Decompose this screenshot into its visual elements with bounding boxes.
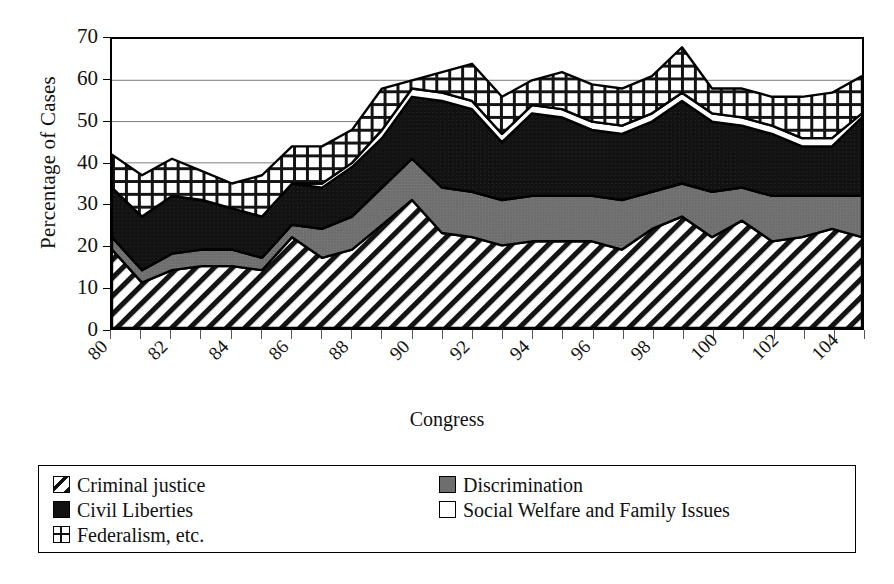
x-tick-mark [140, 330, 141, 339]
x-tick-label: 82 [144, 337, 171, 364]
x-tick-label: 102 [748, 330, 782, 364]
x-tick-label: 84 [205, 337, 232, 364]
y-tick-label: 0 [52, 319, 98, 340]
plot-area [110, 37, 864, 330]
y-tick-label: 20 [52, 235, 98, 256]
x-tick-mark [170, 330, 171, 339]
x-tick-label: 88 [325, 337, 352, 364]
x-tick-label: 98 [627, 337, 654, 364]
x-tick-mark [562, 330, 563, 339]
legend-item[interactable]: Civil Liberties [53, 497, 205, 522]
x-tick-mark [653, 330, 654, 339]
x-tick-mark [593, 330, 594, 339]
x-tick-label: 86 [265, 337, 292, 364]
x-tick-mark [502, 330, 503, 339]
x-tick-label: 96 [567, 337, 594, 364]
cross-hatch-swatch [53, 526, 70, 543]
x-tick-mark [743, 330, 744, 339]
x-tick-label: 100 [687, 330, 721, 364]
chart-legend: Criminal justiceCivil LibertiesFederalis… [38, 465, 856, 553]
legend-item[interactable]: Social Welfare and Family Issues [439, 497, 730, 522]
solid-black-swatch [53, 501, 70, 518]
chart-figure: Percentage of Cases Congress 01020304050… [0, 0, 894, 584]
x-tick-mark [804, 330, 805, 339]
stacked-area-svg [112, 39, 862, 328]
legend-item-label: Federalism, etc. [77, 525, 204, 545]
x-axis-title: Congress [0, 408, 894, 431]
x-tick-mark [351, 330, 352, 339]
y-tick-label: 40 [52, 152, 98, 173]
area-series-group [112, 47, 862, 328]
y-tick-label: 50 [52, 110, 98, 131]
y-tick-label: 10 [52, 277, 98, 298]
x-tick-mark [864, 330, 865, 339]
x-tick-mark [381, 330, 382, 339]
x-tick-mark [261, 330, 262, 339]
x-tick-mark [291, 330, 292, 339]
open-white-swatch [439, 501, 456, 518]
legend-item[interactable]: Federalism, etc. [53, 522, 205, 547]
y-tick-label: 30 [52, 193, 98, 214]
x-tick-label: 90 [386, 337, 413, 364]
diagonal-hatch-swatch [53, 476, 70, 493]
x-tick-mark [623, 330, 624, 339]
legend-item-label: Discrimination [463, 475, 583, 495]
x-tick-mark [321, 330, 322, 339]
x-tick-mark [231, 330, 232, 339]
x-tick-mark [442, 330, 443, 339]
x-tick-mark [472, 330, 473, 339]
legend-item[interactable]: Criminal justice [53, 472, 205, 497]
legend-column-left: Criminal justiceCivil LibertiesFederalis… [53, 472, 205, 547]
y-tick-label: 60 [52, 68, 98, 89]
legend-item-label: Social Welfare and Family Issues [463, 500, 730, 520]
x-tick-mark [683, 330, 684, 339]
y-tick-label: 70 [52, 26, 98, 47]
solid-gray-swatch [439, 476, 456, 493]
legend-item[interactable]: Discrimination [439, 472, 730, 497]
x-tick-label: 104 [808, 330, 842, 364]
x-tick-label: 92 [446, 337, 473, 364]
legend-column-right: DiscriminationSocial Welfare and Family … [439, 472, 730, 522]
legend-item-label: Criminal justice [77, 475, 205, 495]
x-tick-mark [110, 330, 111, 339]
x-tick-label: 94 [506, 337, 533, 364]
x-tick-mark [532, 330, 533, 339]
x-tick-mark [412, 330, 413, 339]
x-tick-mark [200, 330, 201, 339]
legend-item-label: Civil Liberties [77, 500, 193, 520]
